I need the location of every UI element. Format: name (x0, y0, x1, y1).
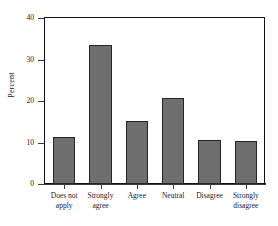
y-tick-mark (38, 184, 44, 185)
y-tick-label: 20 (8, 96, 34, 105)
x-tick-mark (210, 185, 211, 189)
y-axis-title: Percent (7, 55, 21, 115)
bar-slot (235, 18, 258, 184)
y-tick-mark (38, 143, 44, 144)
y-tick-mark (38, 101, 44, 102)
y-tick-label: 40 (8, 13, 34, 22)
y-tick-label: 30 (8, 55, 34, 64)
bar-slot (126, 18, 149, 184)
bar-slot (89, 18, 112, 184)
bar-chart: Percent 010203040 Does not applyStrongly… (0, 0, 278, 226)
x-tick-mark (101, 185, 102, 189)
x-tick-mark (246, 185, 247, 189)
bar (162, 98, 185, 184)
x-tick-mark (64, 185, 65, 189)
x-tick-mark (137, 185, 138, 189)
bar (235, 141, 258, 184)
y-tick-mark (38, 60, 44, 61)
bar (53, 137, 76, 184)
bar-slot (162, 18, 185, 184)
bar (198, 140, 221, 184)
x-tick-label: Strongly disagree (224, 191, 268, 210)
bar-slot (53, 18, 76, 184)
y-tick-label: 0 (8, 179, 34, 188)
x-tick-mark (173, 185, 174, 189)
y-tick-mark (38, 18, 44, 19)
y-tick-label: 10 (8, 138, 34, 147)
bar (89, 45, 112, 184)
bar-slot (198, 18, 221, 184)
bar (126, 121, 149, 184)
bars-layer (46, 18, 264, 184)
